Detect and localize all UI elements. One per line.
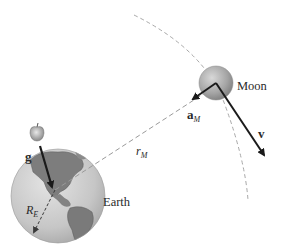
r-e-label: RE: [26, 204, 38, 216]
moon-label: Moon: [237, 80, 267, 93]
g-label: g: [25, 150, 32, 163]
v-vector-arrow: [216, 83, 264, 155]
earth-label: Earth: [103, 196, 130, 209]
earth-moon-diagram: [0, 0, 286, 250]
a-m-label: aM: [187, 108, 200, 121]
apple-icon: [30, 123, 44, 141]
r-m-distance-line: [55, 87, 214, 190]
v-label: v: [258, 127, 265, 140]
r-m-label: rM: [136, 145, 147, 157]
